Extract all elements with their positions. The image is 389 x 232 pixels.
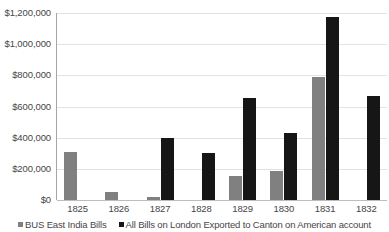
bar[interactable]: [243, 98, 256, 200]
y-axis-tick-label: $1,200,000: [4, 8, 51, 18]
bar[interactable]: [147, 197, 160, 200]
x-axis-tick-label: 1830: [263, 202, 304, 216]
x-axis-tick-label: 1827: [140, 202, 181, 216]
bar[interactable]: [284, 133, 297, 200]
legend-label: All Bills on London Exported to Canton o…: [126, 219, 371, 230]
bar[interactable]: [367, 96, 380, 200]
legend-label: BUS East India Bills: [25, 219, 106, 230]
bar-group: [346, 13, 387, 200]
x-axis-tick-label: 1831: [305, 202, 346, 216]
bar-group: [181, 13, 222, 200]
bar-group: [140, 13, 181, 200]
bar-chart: $0$200,000$400,000$600,000$800,000$1,000…: [0, 0, 389, 232]
x-axis-tick-label: 1829: [222, 202, 263, 216]
y-axis-tick-label: $200,000: [12, 164, 51, 174]
axis-baseline: [57, 200, 387, 201]
bar[interactable]: [326, 17, 339, 200]
bar[interactable]: [161, 138, 174, 200]
bar-group: [263, 13, 304, 200]
y-axis-tick-labels: $0$200,000$400,000$600,000$800,000$1,000…: [0, 0, 55, 206]
bar-group: [305, 13, 346, 200]
y-axis-tick-label: $800,000: [12, 70, 51, 80]
y-axis-tick-label: $0: [41, 195, 51, 205]
legend-swatch-icon: [119, 222, 124, 227]
legend-item[interactable]: BUS East India Bills: [18, 219, 106, 230]
x-axis-tick-label: 1832: [346, 202, 387, 216]
bar[interactable]: [202, 153, 215, 200]
x-axis-tick-label: 1828: [181, 202, 222, 216]
bar-group: [98, 13, 139, 200]
legend-item[interactable]: All Bills on London Exported to Canton o…: [119, 219, 371, 230]
bar[interactable]: [270, 171, 283, 200]
bar-group: [222, 13, 263, 200]
bar[interactable]: [312, 77, 325, 200]
legend-swatch-icon: [18, 222, 23, 227]
x-axis-tick-label: 1825: [57, 202, 98, 216]
bar[interactable]: [229, 176, 242, 200]
y-axis-tick-label: $1,000,000: [4, 39, 51, 49]
y-axis-tick-label: $400,000: [12, 133, 51, 143]
x-axis-tick-labels: 18251826182718281829183018311832: [57, 202, 387, 216]
bar[interactable]: [105, 192, 118, 200]
bar[interactable]: [64, 152, 77, 200]
y-axis-tick-label: $600,000: [12, 102, 51, 112]
bars-layer: [57, 13, 387, 200]
bar-group: [57, 13, 98, 200]
x-axis-tick-label: 1826: [98, 202, 139, 216]
chart-legend: BUS East India BillsAll Bills on London …: [0, 216, 389, 232]
